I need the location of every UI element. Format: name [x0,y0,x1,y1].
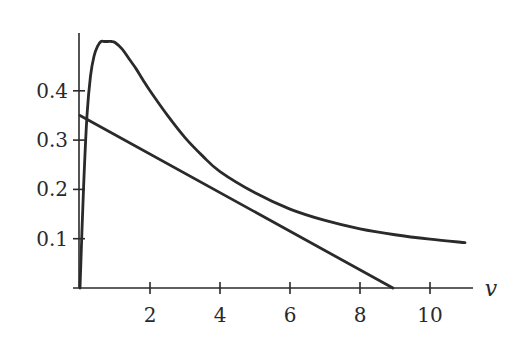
y-tick-label: 0.2 [36,177,68,201]
x-tick-label: 2 [144,303,157,327]
x-tick-label: 6 [284,303,297,327]
x-tick-label: 8 [354,303,367,327]
x-tick-label: 4 [214,303,227,327]
y-ticks: 0.10.20.30.4 [36,79,85,251]
x-axis-label: v [485,276,498,301]
plot-series [80,41,465,288]
y-tick-label: 0.3 [36,128,68,152]
series-curve [80,41,465,288]
line-chart: 246810 0.10.20.30.4 v [0,0,517,348]
x-tick-label: 10 [417,303,442,327]
y-tick-label: 0.1 [36,227,68,251]
series-line [80,115,393,288]
axes [73,33,473,288]
y-tick-label: 0.4 [36,79,68,103]
